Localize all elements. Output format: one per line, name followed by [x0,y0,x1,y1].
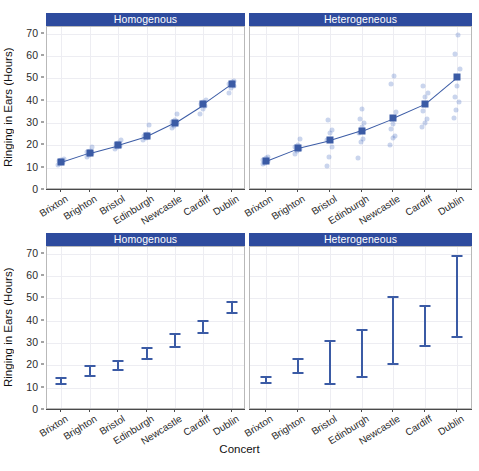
y-tick-label: 50 [26,291,38,303]
jitter-point [420,109,425,114]
jitter-point [393,133,398,138]
gridline-vertical [175,247,176,408]
mean-marker [294,145,301,152]
error-bar-cap-lower [324,383,335,385]
error-bar-cap-upper [260,376,271,378]
error-bar-cap-upper [84,365,95,367]
plot-panel-heterogeneous-bottom [249,246,472,409]
error-bar-stem [329,340,331,385]
error-bar-cap-lower [198,332,209,334]
y-tick-label: 30 [26,116,38,128]
mean-marker [454,74,461,81]
mean-marker [171,119,178,126]
y-tick-mark [41,364,44,365]
gridline-horizontal [47,56,244,57]
gridline-vertical [232,247,233,408]
gridline-horizontal [47,321,244,322]
y-tick-label: 10 [26,161,38,173]
error-bar-stem [456,255,458,338]
y-tick-label: 10 [26,381,38,393]
y-tick-label: 20 [26,138,38,150]
jitter-point [457,66,462,71]
gridline-vertical [90,27,91,188]
gridline-vertical [298,247,299,408]
jitter-point [330,127,335,132]
y-tick-mark [41,32,44,33]
y-tick-label: 40 [26,314,38,326]
jitter-point [325,118,330,123]
x-axis-line [249,189,472,190]
jitter-point [327,155,332,160]
mean-marker [326,137,333,144]
gridline-horizontal [250,388,471,389]
jitter-point [198,111,203,116]
mean-marker [58,159,65,166]
error-bar-cap-upper [388,296,399,298]
error-bar-stem [424,305,426,347]
error-bar-cap-lower [141,358,152,360]
mean-marker [390,114,397,121]
gridline-horizontal [250,101,471,102]
y-tick-mark [41,122,44,123]
chart-top-scatter: Ringing in Ears (Hours) 010203040506070 … [0,8,479,235]
y-tick-mark [41,189,44,190]
y-tick-label: 50 [26,71,38,83]
gridline-horizontal [47,78,244,79]
gridline-vertical [147,247,148,408]
y-tick-mark [41,342,44,343]
gridline-horizontal [47,254,244,255]
jitter-point [388,127,393,132]
error-bar-cap-upper [56,377,67,379]
figure-root: Ringing in Ears (Hours) 010203040506070 … [0,0,479,471]
mean-marker [422,100,429,107]
y-tick-label: 70 [26,27,38,39]
plot-panel-homogenous-bottom [46,246,245,409]
mean-marker [358,127,365,134]
error-bar-cap-upper [420,305,431,307]
panel-strip-heterogeneous-bottom: Heterogeneous [249,233,472,246]
x-axis-line [46,189,245,190]
gridline-horizontal [250,123,471,124]
y-tick-mark [41,99,44,100]
y-tick-mark [41,386,44,387]
y-tick-label: 30 [26,336,38,348]
jitter-point [453,52,458,57]
y-tick-label: 60 [26,269,38,281]
x-axis-line [249,409,472,410]
y-axis-ticks-bottom: 010203040506070 [18,246,44,409]
y-tick-label: 70 [26,247,38,259]
y-tick-label: 60 [26,49,38,61]
jitter-point [175,112,180,117]
jitter-point [454,108,459,113]
mean-marker [262,157,269,164]
jitter-point [226,90,231,95]
gridline-horizontal [47,123,244,124]
gridline-horizontal [250,276,471,277]
y-axis-title-bottom: Ringing in Ears (Hours) [2,246,18,409]
mean-connector-line [329,131,361,142]
gridline-horizontal [47,101,244,102]
gridline-vertical [362,247,363,408]
error-bar-cap-lower [260,382,271,384]
gridline-horizontal [250,321,471,322]
gridline-horizontal [47,298,244,299]
jitter-point [146,123,151,128]
x-axis-line [46,409,245,410]
jitter-point [360,106,365,111]
gridline-vertical [118,247,119,408]
error-bar-cap-lower [169,346,180,348]
error-bar-cap-upper [113,360,124,362]
gridline-horizontal [250,78,471,79]
y-axis-title-top: Ringing in Ears (Hours) [2,26,18,189]
gridline-horizontal [47,388,244,389]
jitter-point [361,120,366,125]
error-bar-cap-lower [356,376,367,378]
error-bar-cap-upper [198,320,209,322]
y-tick-mark [41,275,44,276]
x-axis-title: Concert [0,443,479,455]
error-bar-cap-lower [420,345,431,347]
gridline-horizontal [250,56,471,57]
y-tick-mark [41,297,44,298]
panel-strip-homogenous-bottom: Homogenous [46,233,245,246]
panel-strip-homogenous-top: Homogenous [46,13,245,26]
